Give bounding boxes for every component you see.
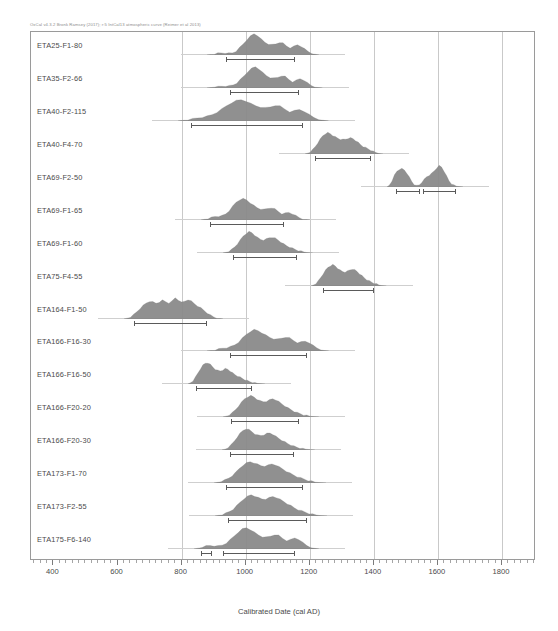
distribution-row: ETA164-F1-50 xyxy=(31,296,534,329)
axis-tick-minor xyxy=(290,560,291,563)
range-cap-right xyxy=(455,189,456,194)
range-cap-left xyxy=(201,551,202,556)
range-cap-right xyxy=(294,551,295,556)
sample-label: ETA164-F1-50 xyxy=(37,305,87,314)
axis-tick-label: 400 xyxy=(46,567,59,576)
range-bar xyxy=(226,57,295,62)
axis-tick-minor xyxy=(443,560,444,563)
axis-tick-minor xyxy=(206,560,207,563)
range-bar xyxy=(230,452,294,457)
axis-tick-minor xyxy=(155,560,156,563)
distribution-row: ETA166-F20-20 xyxy=(31,394,534,427)
probability-density-curve xyxy=(207,328,329,351)
axis-tick-minor xyxy=(213,560,214,563)
axis-tick-major xyxy=(52,560,53,565)
axis-tick-minor xyxy=(507,560,508,563)
range-bar xyxy=(228,518,306,523)
range-bar xyxy=(230,353,307,358)
distribution-row: ETA166-F16-50 xyxy=(31,361,534,394)
range-cap-left xyxy=(233,255,234,260)
range-line xyxy=(210,224,284,225)
axis-tick-minor xyxy=(424,560,425,563)
axis-tick-minor xyxy=(72,560,73,563)
axis-tick-minor xyxy=(360,560,361,563)
range-bar xyxy=(134,321,208,326)
axis-tick-minor xyxy=(475,560,476,563)
range-cap-right xyxy=(419,189,420,194)
axis-tick-minor xyxy=(411,560,412,563)
axis-tick-label: 1200 xyxy=(300,567,317,576)
probability-density-curve xyxy=(214,460,326,483)
probability-density-curve xyxy=(124,296,223,319)
axis-tick-minor xyxy=(514,560,515,563)
distribution-row: ETA69-F1-60 xyxy=(31,230,534,263)
range-cap-right xyxy=(294,57,295,62)
distribution-row: ETA175-F6-140 xyxy=(31,526,534,559)
axis-tick-minor xyxy=(232,560,233,563)
axis-tick-minor xyxy=(386,560,387,563)
axis-tick-label: 1800 xyxy=(493,567,510,576)
distribution-row: ETA173-F1-70 xyxy=(31,460,534,493)
axis-tick-minor xyxy=(168,560,169,563)
sample-label: ETA166-F16-30 xyxy=(37,337,91,346)
axis-tick-minor xyxy=(488,560,489,563)
range-bar xyxy=(315,156,371,161)
range-cap-left xyxy=(231,419,232,424)
axis-tick-minor xyxy=(84,560,85,563)
range-cap-right xyxy=(306,353,307,358)
axis-tick-minor xyxy=(482,560,483,563)
axis-tick-minor xyxy=(174,560,175,563)
axis-tick-minor xyxy=(78,560,79,563)
axis-tick-minor xyxy=(251,560,252,563)
range-cap-left xyxy=(210,222,211,227)
axis-tick-minor xyxy=(104,560,105,563)
axis-tick-minor xyxy=(463,560,464,563)
axis-tick-minor xyxy=(296,560,297,563)
probability-density-curve xyxy=(178,98,329,121)
range-cap-right xyxy=(298,419,299,424)
sample-label: ETA40-F2-115 xyxy=(37,107,86,116)
distribution-row: ETA166-F16-30 xyxy=(31,328,534,361)
axis-tick-minor xyxy=(33,560,34,563)
x-axis-title: Calibrated Date (cal AD) xyxy=(0,607,558,616)
axis-tick-label: 1000 xyxy=(236,567,253,576)
axis-tick-minor xyxy=(59,560,60,563)
range-line xyxy=(191,125,303,126)
axis-tick-minor xyxy=(520,560,521,563)
range-cap-right xyxy=(370,156,371,161)
sample-label: ETA69-F1-60 xyxy=(37,239,82,248)
probability-density-curve xyxy=(311,263,386,286)
axis-tick-minor xyxy=(46,560,47,563)
distribution-row: ETA35-F2-66 xyxy=(31,65,534,98)
axis-tick-minor xyxy=(450,560,451,563)
axis-tick-minor xyxy=(283,560,284,563)
axis-tick-label: 1400 xyxy=(364,567,381,576)
axis-tick-minor xyxy=(322,560,323,563)
range-line xyxy=(396,191,420,192)
axis-tick-minor xyxy=(270,560,271,563)
range-cap-left xyxy=(230,452,231,457)
range-cap-left xyxy=(323,288,324,293)
axis-tick-minor xyxy=(456,560,457,563)
axis-tick-minor xyxy=(341,560,342,563)
range-bar xyxy=(423,189,455,194)
axis-tick-minor xyxy=(40,560,41,563)
axis-tick-minor xyxy=(136,560,137,563)
range-bar xyxy=(191,123,303,128)
axis-tick-minor xyxy=(430,560,431,563)
probability-density-curve xyxy=(207,65,322,88)
range-cap-right xyxy=(302,485,303,490)
range-line xyxy=(226,487,303,488)
range-cap-left xyxy=(230,353,231,358)
range-cap-left xyxy=(423,189,424,194)
probability-density-curve xyxy=(305,131,383,154)
axis-tick-minor xyxy=(219,560,220,563)
range-cap-left xyxy=(196,386,197,391)
axis-tick-minor xyxy=(264,560,265,563)
range-line xyxy=(230,454,294,455)
range-line xyxy=(223,553,295,554)
range-line xyxy=(228,520,306,521)
axis-tick-minor xyxy=(354,560,355,563)
axis-tick-minor xyxy=(193,560,194,563)
range-bar xyxy=(210,222,284,227)
